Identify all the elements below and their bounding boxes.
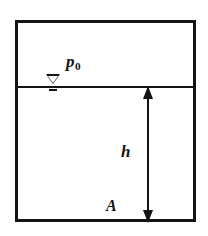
depth-dimension-arrow bbox=[140, 86, 156, 223]
dimension-shaft bbox=[147, 88, 149, 221]
hydrostatic-tank-figure: p0 h A bbox=[0, 0, 208, 236]
tank-outline bbox=[15, 20, 196, 222]
area-label: A bbox=[106, 198, 117, 214]
pressure-label: p0 bbox=[66, 53, 80, 70]
free-surface-line bbox=[15, 86, 196, 88]
pressure-label-base: p bbox=[66, 52, 75, 71]
water-level-triangle-inner-icon bbox=[48, 76, 58, 83]
water-level-symbol-icon bbox=[44, 74, 62, 92]
water-level-hatch-upper-icon bbox=[47, 86, 59, 88]
water-level-hatch-lower-icon bbox=[49, 89, 57, 91]
pressure-label-subscript: 0 bbox=[75, 60, 81, 72]
arrowhead-down-icon bbox=[143, 210, 153, 223]
depth-label: h bbox=[121, 143, 130, 160]
